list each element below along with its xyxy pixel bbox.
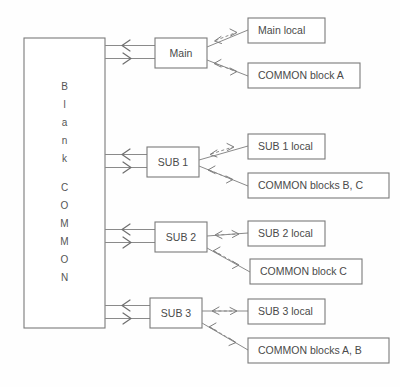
sub3-box-label: SUB 3 (161, 307, 192, 319)
target-box-sub3-local[interactable]: SUB 3 local (248, 299, 325, 324)
blank-common-group: B l a n k C O M M O N (24, 38, 105, 328)
dashed-double-arrow-sub1-local (210, 144, 234, 158)
blank-common-letter-C: C (61, 182, 68, 193)
unit-box-sub3[interactable]: SUB 3 (150, 298, 202, 328)
sub2-box-label: SUB 2 (166, 231, 197, 243)
common-blocks-bc-label: COMMON blocks B, C (258, 179, 363, 191)
common-blocks-ab-label: COMMON blocks A, B (258, 344, 362, 356)
diagram-canvas: B l a n k C O M M O N Main (0, 0, 400, 387)
connector-main-to-common (105, 40, 155, 64)
target-box-sub2-local[interactable]: SUB 2 local (248, 221, 325, 246)
dashed-double-arrow-common-a (214, 60, 237, 76)
unit-box-sub1[interactable]: SUB 1 (147, 147, 199, 177)
common-block-a-label: COMMON block A (258, 69, 344, 81)
target-box-common-block-a[interactable]: COMMON block A (248, 63, 360, 88)
common-blocks-bc-line (199, 166, 248, 186)
dash-head-right (232, 261, 239, 269)
blank-common-letter-O2: O (61, 254, 69, 265)
dashed-double-arrow-common-ab (209, 323, 236, 346)
unit-box-main[interactable]: Main (155, 38, 207, 68)
unit-box-sub2[interactable]: SUB 2 (155, 222, 207, 252)
dash-head-right (229, 338, 236, 346)
blank-common-letter-l: l (63, 99, 65, 110)
dash-head-right (227, 144, 234, 151)
sub1-local-label: SUB 1 local (258, 140, 313, 152)
sub3-local-label: SUB 3 local (258, 305, 313, 317)
target-box-common-blocks-bc[interactable]: COMMON blocks B, C (248, 173, 389, 198)
connector-sub3-to-common (105, 300, 150, 324)
blank-common-letter-n: n (62, 135, 68, 146)
sub1-local-line (199, 146, 248, 160)
blank-common-letter-N: N (61, 272, 68, 283)
blank-common-letter-M1: M (60, 218, 68, 229)
connector-sub2-to-common-block-c (207, 247, 250, 272)
target-box-sub1-local[interactable]: SUB 1 local (248, 134, 325, 159)
connector-sub1-to-sub1-local (199, 144, 248, 161)
sub1-box-label: SUB 1 (158, 156, 189, 168)
main-box-label: Main (170, 47, 193, 59)
dash-head-right (230, 68, 237, 75)
dashed-double-arrow-sub2-local (215, 231, 239, 239)
connector-sub2-to-common (105, 224, 155, 248)
connector-main-to-common-block-a (207, 60, 248, 77)
connector-sub3-to-sub3-local (202, 307, 248, 315)
connector-sub1-to-common-blocks-bc (199, 166, 248, 186)
dashed-double-arrow-common-bc (208, 166, 233, 183)
blank-common-letter-a: a (62, 117, 68, 128)
dash-head-right (226, 176, 233, 183)
target-box-common-blocks-ab[interactable]: COMMON blocks A, B (248, 338, 389, 363)
blank-common-letter-B: B (61, 81, 68, 92)
sub2-local-label: SUB 2 local (258, 227, 313, 239)
target-box-common-block-c[interactable]: COMMON block C (250, 259, 362, 284)
common-block-c-label: COMMON block C (260, 265, 347, 277)
connector-sub3-to-common-blocks-ab (202, 323, 248, 350)
diagram-svg: B l a n k C O M M O N Main (0, 0, 400, 387)
blank-common-letter-M2: M (60, 236, 68, 247)
dashed-double-arrow-common-c (213, 247, 239, 269)
connector-sub1-to-common (105, 149, 147, 173)
connector-main-to-main-local (207, 29, 248, 47)
main-local-line (207, 30, 248, 47)
connector-sub2-to-sub2-local (207, 231, 248, 239)
main-local-label: Main local (258, 24, 305, 36)
target-box-main-local[interactable]: Main local (248, 18, 325, 43)
blank-common-letter-O1: O (61, 200, 69, 211)
